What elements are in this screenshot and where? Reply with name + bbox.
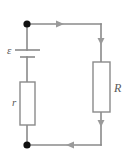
junction-dot-bottom-left (23, 141, 30, 148)
current-arrow-top (56, 21, 64, 28)
battery-symbol (15, 50, 40, 57)
current-arrow-right-upper (98, 38, 105, 45)
external-resistance-box (93, 62, 110, 112)
circuit-diagram-figure: ε r R (0, 0, 137, 160)
wire-group (27, 24, 101, 145)
label-emf: ε (7, 44, 12, 56)
current-arrow-bottom (66, 142, 74, 149)
junction-dot-top-left (23, 20, 30, 27)
internal-resistance-box (20, 82, 35, 125)
label-external-resistance: R (113, 81, 122, 95)
label-internal-resistance: r (12, 96, 17, 108)
current-arrow-right-lower (98, 120, 105, 127)
circuit-schematic-canvas: ε r R (0, 0, 137, 160)
